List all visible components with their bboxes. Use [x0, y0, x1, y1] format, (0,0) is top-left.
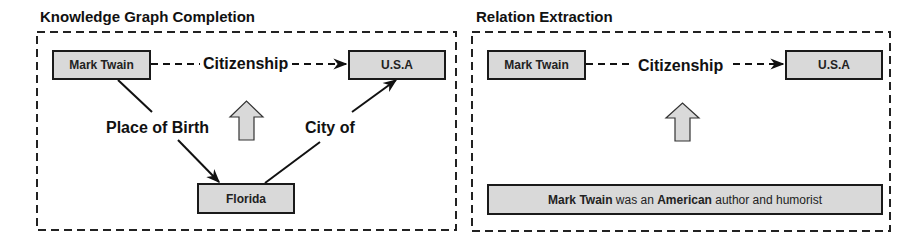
kgc-node-mark-twain: Mark Twain	[52, 50, 151, 80]
up-arrow-icon	[230, 101, 263, 140]
kgc-edge-place-of-birth: Place of Birth	[106, 119, 209, 137]
re-node-usa: U.S.A	[785, 50, 883, 80]
sentence-entity-head: Mark Twain	[548, 193, 612, 207]
re-node-mark-twain: Mark Twain	[487, 50, 586, 80]
kgc-edge-citizenship: Citizenship	[203, 55, 288, 73]
sentence-text: author and humorist	[712, 193, 822, 207]
sentence-text: was an	[613, 193, 658, 207]
kgc-node-usa: U.S.A	[348, 50, 446, 80]
kgc-edge-city-of: City of	[305, 119, 355, 137]
kgc-node-florida: Florida	[197, 183, 295, 214]
sentence-entity-tail: American	[657, 193, 712, 207]
re-edge-citizenship: Citizenship	[638, 57, 723, 75]
re-sentence-box: Mark Twain was an American author and hu…	[487, 184, 883, 215]
re-panel-title: Relation Extraction	[476, 8, 613, 25]
kgc-panel-title: Knowledge Graph Completion	[40, 8, 255, 25]
up-arrow-icon	[666, 103, 699, 141]
